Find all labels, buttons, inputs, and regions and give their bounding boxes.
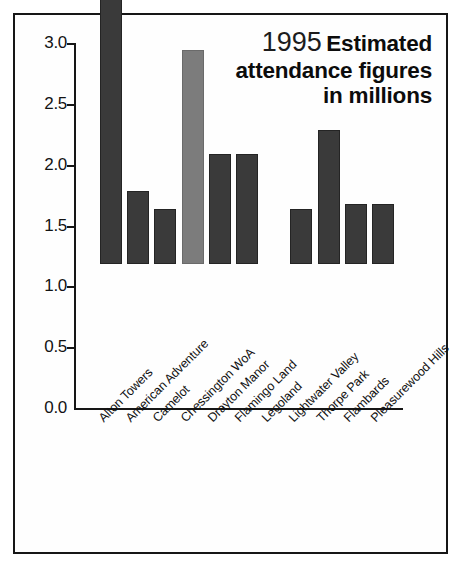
y-axis-tick — [67, 226, 76, 228]
y-axis-tick-label: 1.0 — [21, 276, 67, 296]
y-axis-tick-label: 2.5 — [21, 94, 67, 114]
y-axis-tick-label: 3.0 — [21, 33, 67, 53]
bar — [290, 209, 312, 264]
y-axis-tick-label: 2.0 — [21, 155, 67, 175]
y-axis-tick — [67, 347, 76, 349]
bar — [182, 50, 204, 264]
bar — [236, 154, 258, 264]
source-note-container: Source: The Tussauds Group estimate — [422, 238, 442, 538]
y-axis-tick — [67, 43, 76, 45]
x-axis-labels: Alton TowersAmerican AdventureCamelotChe… — [15, 411, 450, 556]
y-axis-tick-label: 0.5 — [21, 337, 67, 357]
bar — [372, 204, 394, 264]
y-axis-tick-label: 1.5 — [21, 216, 67, 236]
bar — [345, 204, 367, 264]
y-axis-tick — [67, 104, 76, 106]
bar — [209, 154, 231, 264]
bar — [154, 209, 176, 264]
bar — [318, 130, 340, 264]
y-axis-tick — [67, 286, 76, 288]
chart-figure: 1995 Estimated attendance figures in mil… — [13, 13, 448, 554]
y-axis-tick — [67, 165, 76, 167]
bar — [100, 0, 122, 264]
bar — [127, 191, 149, 264]
